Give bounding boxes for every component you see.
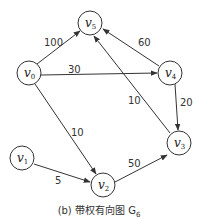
edge-v2-v3: 50 [115,155,167,182]
edge-v0-v2: 10 [35,84,96,174]
weighted-directed-graph: 100 30 10 60 20 10 5 50 v0 v1 v2 [0,0,198,219]
node-v4: v4 [158,61,182,85]
edge-v3-v5: 10 [94,36,170,133]
edge-weight: 5 [55,175,61,186]
node-v2: v2 [91,173,115,197]
figure-caption: (b) 带权有向图 G6 [0,202,198,219]
edge-weight: 20 [180,97,193,108]
node-v1: v1 [10,146,34,170]
caption-text: (b) 带权有向图 G [58,205,136,216]
edge-weight: 30 [68,64,81,75]
edge-v0-v4: 30 [41,64,157,75]
node-v3: v3 [167,131,191,155]
edge-v4-v3: 20 [175,84,193,130]
node-v5: v5 [78,11,102,35]
node-v0: v0 [17,61,41,85]
edge-weight: 60 [138,37,151,48]
edge-weight: 100 [44,37,63,48]
edge-v1-v2: 5 [34,164,90,186]
edge-v0-v5: 100 [37,31,80,64]
caption-subscript: 6 [136,211,140,219]
edge-weight: 10 [71,127,84,138]
edge-v4-v5: 60 [103,29,159,66]
edge-weight: 50 [128,158,141,169]
edge-weight: 10 [128,95,141,106]
